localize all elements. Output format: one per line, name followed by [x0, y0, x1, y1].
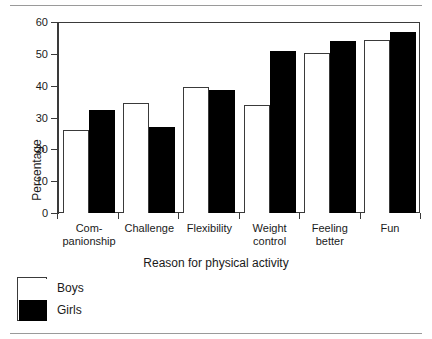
bar-boys	[123, 103, 149, 213]
y-tick-mark	[51, 54, 57, 55]
x-tick-mark	[299, 213, 300, 219]
bar-group	[119, 22, 179, 213]
x-tick-label-line: better	[300, 235, 360, 248]
y-tick-label: 0	[42, 208, 48, 219]
x-tick-label: Feelingbetter	[300, 222, 360, 248]
y-tick-label: 40	[36, 81, 48, 92]
x-tick-label-line: Weight	[240, 222, 300, 235]
bar-girls	[149, 127, 175, 213]
y-tick-label: 30	[36, 113, 48, 124]
y-tick-label: 10	[36, 176, 48, 187]
bottom-rule	[10, 333, 422, 334]
bar-boys	[304, 53, 330, 213]
x-tick-mark	[360, 213, 361, 219]
bar-girls	[330, 41, 356, 213]
x-axis-labels: Com-panionshipChallengeFlexibilityWeight…	[59, 222, 420, 248]
x-tick-label: Fun	[360, 222, 420, 248]
x-tick-label-line: panionship	[59, 235, 119, 248]
x-tick-label-line: Challenge	[119, 222, 179, 235]
bar-group	[240, 22, 300, 213]
plot-area: 0102030405060	[57, 22, 420, 213]
legend-label-girls: Girls	[57, 304, 82, 316]
bar-boys	[63, 130, 89, 213]
x-axis-ticks	[57, 213, 420, 220]
x-tick-label-line: Com-	[59, 222, 119, 235]
y-tick-mark	[51, 149, 57, 150]
bar-boys	[244, 105, 270, 213]
y-tick-label: 50	[36, 49, 48, 60]
legend-label-boys: Boys	[57, 282, 84, 294]
figure: Percentage 0102030405060 Com-panionshipC…	[0, 0, 432, 339]
bar-group	[179, 22, 239, 213]
x-tick-label-line: control	[240, 235, 300, 248]
y-tick-mark	[51, 22, 57, 23]
y-tick-mark	[51, 86, 57, 87]
x-tick-mark	[239, 213, 240, 219]
x-tick-label-line: Flexibility	[179, 222, 239, 235]
x-tick-mark	[420, 213, 421, 219]
y-axis-ticks: 0102030405060	[50, 22, 57, 213]
x-tick-mark	[178, 213, 179, 219]
bar-series-container	[59, 22, 420, 213]
x-tick-label: Com-panionship	[59, 222, 119, 248]
legend-swatch-girls	[19, 300, 47, 321]
legend-swatch-box	[17, 277, 47, 321]
y-tick-mark	[51, 181, 57, 182]
bar-girls	[270, 51, 296, 213]
bar-girls	[89, 110, 115, 213]
bar-boys	[364, 40, 390, 213]
bar-boys	[183, 87, 209, 213]
x-tick-label-line: Fun	[360, 222, 420, 235]
legend-swatch-boys	[19, 279, 47, 300]
x-axis-title: Reason for physical activity	[0, 256, 432, 270]
top-rule	[10, 5, 422, 6]
bar-group	[360, 22, 420, 213]
y-tick-label: 60	[36, 17, 48, 28]
bar-group	[300, 22, 360, 213]
bar-girls	[390, 32, 416, 213]
bar-girls	[209, 90, 235, 214]
x-tick-mark	[118, 213, 119, 219]
x-tick-label: Flexibility	[179, 222, 239, 248]
x-tick-label: Challenge	[119, 222, 179, 248]
x-tick-label-line: Feeling	[300, 222, 360, 235]
x-tick-mark	[57, 213, 58, 219]
y-tick-mark	[51, 118, 57, 119]
x-tick-label: Weightcontrol	[240, 222, 300, 248]
bar-group	[59, 22, 119, 213]
y-tick-label: 20	[36, 144, 48, 155]
